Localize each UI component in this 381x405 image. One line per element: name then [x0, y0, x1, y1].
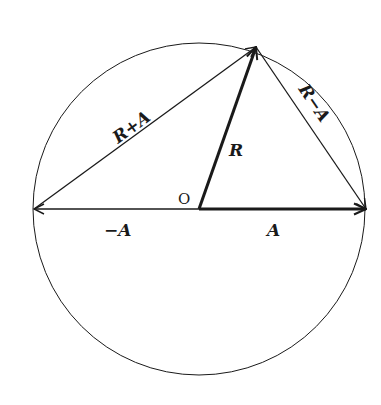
label-r: R: [228, 140, 243, 160]
label-a: A: [265, 220, 280, 240]
label-neg-a: −A: [104, 220, 131, 240]
label-r-plus-a: R+A: [108, 107, 154, 148]
vector-r: [199, 47, 256, 209]
vector-diagram: O R A −A R+A R−A: [0, 0, 381, 405]
vector-r-minus-a: [256, 47, 366, 209]
label-r-minus-a: R−A: [294, 79, 334, 125]
origin-label: O: [178, 190, 190, 208]
